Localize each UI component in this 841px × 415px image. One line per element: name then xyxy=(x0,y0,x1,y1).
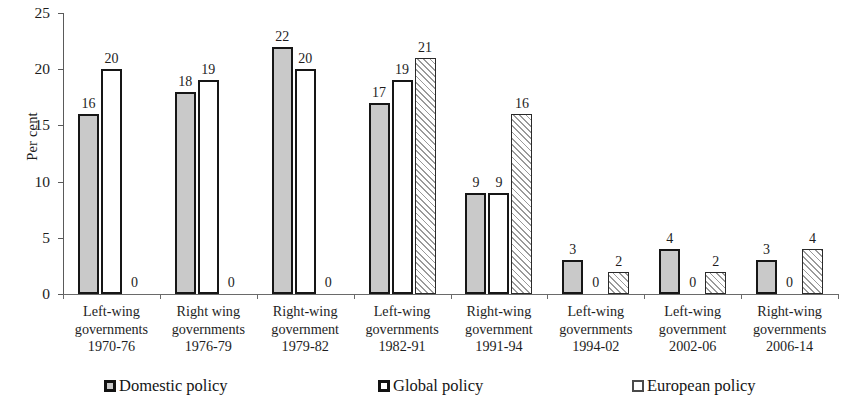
category-label-line: Right-wing xyxy=(735,303,841,321)
bar-european xyxy=(511,114,532,294)
bar-value-label: 20 xyxy=(286,52,325,66)
bar-global xyxy=(198,80,219,294)
category-label-line: 1970-76 xyxy=(57,338,166,356)
bar-global xyxy=(392,80,413,294)
bar-value-label: 20 xyxy=(92,52,131,66)
bar-group: 402 xyxy=(644,13,741,294)
category-label-line: government xyxy=(445,321,554,339)
x-axis-tick xyxy=(354,294,355,299)
category-label-line: Right-wing xyxy=(445,303,554,321)
x-axis-category-label: Right winggovernments1976-79 xyxy=(154,303,263,356)
category-label-line: Right wing xyxy=(154,303,263,321)
y-axis-tick-label: 10 xyxy=(0,174,50,190)
category-label-line: government xyxy=(638,321,747,339)
category-label-line: 1991-94 xyxy=(445,338,554,356)
bar-value-label: 0 xyxy=(309,276,348,290)
y-axis-tick-label: 25 xyxy=(0,5,50,21)
x-axis-tick xyxy=(838,294,839,299)
x-axis-tick xyxy=(63,294,64,299)
x-axis-category-label: Right-winggovernment1991-94 xyxy=(445,303,554,356)
category-label-line: 2002-06 xyxy=(638,338,747,356)
y-axis-tick-label: 0 xyxy=(0,286,50,302)
x-axis-category-label: Right-winggovernments2006-14 xyxy=(735,303,841,356)
x-axis-category-label: Right-winggovernment1979-82 xyxy=(251,303,360,356)
bar-group: 16200 xyxy=(63,13,160,294)
category-label-line: Left-wing xyxy=(541,303,650,321)
category-label-line: 1994-02 xyxy=(541,338,650,356)
bar-value-label: 21 xyxy=(406,41,445,55)
bar-value-label: 2 xyxy=(696,255,735,269)
category-label-line: Right-wing xyxy=(251,303,360,321)
category-label-line: 2006-14 xyxy=(735,338,841,356)
legend-label: Global policy xyxy=(393,378,483,395)
category-label-line: governments xyxy=(154,321,263,339)
legend-item-domestic[interactable]: Domestic policy xyxy=(104,378,228,395)
bar-group: 22200 xyxy=(257,13,354,294)
x-axis-category-label: Left-winggovernments1994-02 xyxy=(541,303,650,356)
category-label-line: 1982-91 xyxy=(348,338,457,356)
y-axis-tick-label: 15 xyxy=(0,117,50,133)
x-axis-tick xyxy=(644,294,645,299)
category-label-line: government xyxy=(251,321,360,339)
category-label-line: Left-wing xyxy=(348,303,457,321)
x-axis-tick xyxy=(741,294,742,299)
x-axis-category-label: Left-winggovernment2002-06 xyxy=(638,303,747,356)
bar-value-label: 2 xyxy=(599,255,638,269)
bar-domestic xyxy=(78,114,99,294)
legend-swatch-icon xyxy=(104,380,116,392)
bar-domestic xyxy=(465,193,486,294)
bar-global xyxy=(295,69,316,294)
bar-group: 302 xyxy=(547,13,644,294)
bar-value-label: 0 xyxy=(115,276,154,290)
x-axis-tick xyxy=(257,294,258,299)
bar-global xyxy=(101,69,122,294)
bar-group: 9916 xyxy=(451,13,548,294)
bar-european xyxy=(802,249,823,294)
category-label-line: governments xyxy=(735,321,841,339)
x-axis-tick xyxy=(160,294,161,299)
category-label-line: 1979-82 xyxy=(251,338,360,356)
legend-item-global[interactable]: Global policy xyxy=(378,378,483,395)
bar-domestic xyxy=(175,92,196,294)
category-label-line: 1976-79 xyxy=(154,338,263,356)
x-axis-tick xyxy=(547,294,548,299)
legend-item-european[interactable]: European policy xyxy=(632,378,756,395)
bar-group: 304 xyxy=(741,13,838,294)
bar-value-label: 3 xyxy=(747,243,786,257)
legend-swatch-icon xyxy=(378,380,390,392)
bar-domestic xyxy=(369,103,390,294)
category-label-line: governments xyxy=(541,321,650,339)
bar-global xyxy=(488,193,509,294)
category-label-line: governments xyxy=(57,321,166,339)
bar-domestic xyxy=(272,47,293,294)
legend-label: European policy xyxy=(647,378,756,395)
y-axis-tick-label: 5 xyxy=(0,230,50,246)
bar-european xyxy=(705,272,726,294)
bar-european xyxy=(415,58,436,294)
bar-european xyxy=(608,272,629,294)
bar-group: 18190 xyxy=(160,13,257,294)
legend-label: Domestic policy xyxy=(119,378,228,395)
x-axis-tick xyxy=(451,294,452,299)
chart-legend: Domestic policyGlobal policyEuropean pol… xyxy=(0,378,841,406)
bar-group: 171921 xyxy=(354,13,451,294)
bar-value-label: 4 xyxy=(793,232,832,246)
category-label-line: governments xyxy=(348,321,457,339)
x-axis-category-label: Left-winggovernments1982-91 xyxy=(348,303,457,356)
category-label-line: Left-wing xyxy=(57,303,166,321)
bar-chart: Per cent 0510152025 16200181902220017192… xyxy=(0,0,841,415)
legend-swatch-icon xyxy=(632,380,644,392)
x-axis-category-label: Left-winggovernments1970-76 xyxy=(57,303,166,356)
bar-value-label: 19 xyxy=(189,63,228,77)
bar-value-label: 3 xyxy=(553,243,592,257)
y-axis-tick-label: 20 xyxy=(0,61,50,77)
bar-value-label: 22 xyxy=(263,30,302,44)
bar-value-label: 0 xyxy=(212,276,251,290)
bar-value-label: 4 xyxy=(650,232,689,246)
category-label-line: Left-wing xyxy=(638,303,747,321)
bar-value-label: 16 xyxy=(502,97,541,111)
